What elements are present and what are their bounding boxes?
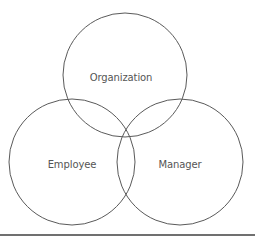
set-employee: Employee [9, 99, 135, 225]
employee-label: Employee [48, 159, 97, 170]
bottom-divider [0, 234, 255, 236]
set-manager: Manager [117, 99, 243, 225]
venn-diagram: Organization Employee Manager [0, 0, 255, 242]
set-organization: Organization [63, 13, 187, 137]
organization-label: Organization [90, 72, 153, 83]
manager-label: Manager [158, 159, 202, 170]
